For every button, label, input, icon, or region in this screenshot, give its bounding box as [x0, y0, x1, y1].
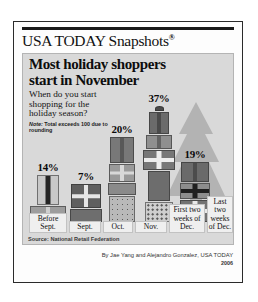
ribbon-vertical: [46, 176, 51, 204]
source-line: Source: National Retail Federation: [28, 236, 119, 242]
gift-box: [37, 175, 59, 205]
ribbon-vertical: [157, 136, 161, 148]
ribbon-vertical: [157, 113, 161, 133]
bar-value-label: 14%: [37, 161, 58, 173]
bar-value-label: 7%: [78, 170, 94, 182]
masthead-title-text: USA TODAY Snapshots: [22, 32, 169, 49]
masthead-title: USA TODAY Snapshots®: [22, 32, 234, 50]
byline: By Jae Yang and Alejandro Gonzalez, USA …: [102, 251, 233, 267]
ribbon-vertical: [193, 163, 197, 181]
subtitle: When do you start shopping for the holid…: [29, 90, 107, 119]
bar-value-label: 20%: [111, 123, 132, 135]
chart-panel: Most holiday shoppers start in November …: [22, 53, 234, 245]
gift-box: [109, 164, 135, 182]
category-label-oct: Oct.: [103, 221, 133, 233]
masthead-rule: [22, 27, 234, 30]
ribbon-horizontal: [181, 189, 209, 193]
byline-year: 2006: [102, 259, 233, 267]
ribbon-horizontal: [144, 158, 174, 162]
gift-box: [181, 162, 209, 182]
bar-value-label: 37%: [148, 92, 169, 104]
gift-box: [149, 112, 169, 134]
category-label-strip: Before Sept. Sept. Oct. Nov. First two w…: [23, 206, 233, 233]
registered-mark-icon: ®: [169, 32, 175, 41]
ribbon-vertical: [120, 138, 124, 162]
page-title: Most holiday shoppers start in November: [29, 57, 169, 88]
category-label-before-sept: Before Sept.: [29, 213, 67, 233]
gift-box: [108, 183, 136, 195]
gift-box: [146, 135, 172, 149]
category-label-last-two-weeks-dec: Last two weeks of Dec.: [207, 196, 233, 233]
chart-note: Note: Total exceeds 100 due to rounding: [29, 121, 109, 133]
byline-credit: By Jae Yang and Alejandro Gonzalez, USA …: [102, 251, 233, 259]
ribbon-horizontal: [110, 172, 134, 175]
ribbon-horizontal: [72, 194, 100, 198]
gift-box: [71, 184, 101, 208]
category-label-first-two-weeks-dec: First two weeks of Dec.: [169, 204, 205, 233]
bar-column-nov: 37%: [141, 92, 177, 222]
snapshot-frame: USA TODAY Snapshots® Most holiday shoppe…: [13, 21, 243, 283]
gift-bow-icon: [155, 106, 164, 111]
category-label-nov: Nov.: [135, 221, 167, 233]
gift-box: [180, 183, 210, 199]
masthead: USA TODAY Snapshots®: [22, 27, 234, 50]
gift-box: [143, 150, 175, 170]
category-label-sept: Sept.: [69, 221, 101, 233]
gift-box: [148, 171, 170, 201]
bar-value-label: 19%: [184, 148, 205, 160]
gift-box: [110, 137, 134, 163]
